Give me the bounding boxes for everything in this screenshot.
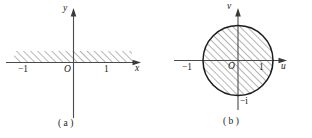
- v-axis-arrow-icon: [235, 8, 241, 17]
- panel-b-u-axis-label: u: [281, 62, 286, 72]
- y-axis-arrow-icon: [71, 8, 77, 17]
- panel-b-utick-pos1: 1: [259, 63, 264, 73]
- panel-b-vtick-negi: −i: [240, 97, 248, 107]
- figure-container: y x O −1 1 ( a ): [0, 0, 312, 138]
- panel-a-origin-label: O: [64, 65, 71, 75]
- panel-a-xtick-pos1: 1: [104, 65, 109, 75]
- panel-b-v-axis-label: v: [227, 2, 231, 12]
- panel-a-caption: ( a ): [58, 119, 73, 129]
- panel-b-utick-neg1: −1: [182, 63, 192, 73]
- panel-a-xtick-neg1: −1: [18, 65, 28, 75]
- panel-b-origin-label: O: [228, 62, 235, 72]
- panel-b-caption: ( b ): [223, 117, 239, 127]
- panel-a: y x O −1 1 ( a ): [0, 0, 156, 138]
- panel-b: v u O −1 1 −i ( b ): [156, 0, 312, 138]
- panel-a-y-axis-label: y: [63, 4, 67, 14]
- panel-a-x-axis-label: x: [135, 64, 139, 74]
